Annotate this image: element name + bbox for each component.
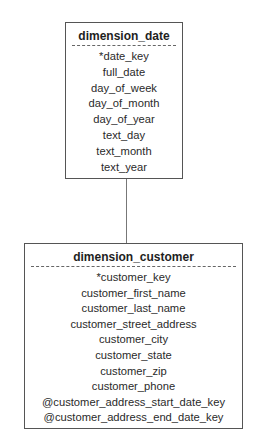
attribute: customer_phone bbox=[25, 379, 242, 395]
attribute: @customer_address_start_date_key bbox=[25, 395, 242, 411]
attribute: customer_zip bbox=[25, 364, 242, 380]
attribute: text_year bbox=[66, 160, 182, 176]
attribute: day_of_year bbox=[66, 112, 182, 128]
attribute: customer_last_name bbox=[25, 301, 242, 317]
attribute: *date_key bbox=[66, 49, 182, 65]
attribute: customer_street_address bbox=[25, 317, 242, 333]
relationship-line bbox=[126, 179, 127, 243]
attribute: day_of_month bbox=[66, 96, 182, 112]
attribute: customer_first_name bbox=[25, 286, 242, 302]
entity-title: dimension_date bbox=[66, 23, 182, 45]
attribute: @customer_address_end_date_key bbox=[25, 410, 242, 426]
attribute: *customer_key bbox=[25, 270, 242, 286]
attribute-list: *customer_key customer_first_name custom… bbox=[25, 267, 242, 426]
attribute: text_month bbox=[66, 144, 182, 160]
attribute: text_day bbox=[66, 128, 182, 144]
attribute: day_of_week bbox=[66, 81, 182, 97]
entity-dimension-customer: dimension_customer *customer_key custome… bbox=[24, 243, 243, 429]
attribute: customer_state bbox=[25, 348, 242, 364]
entity-dimension-date: dimension_date *date_key full_date day_o… bbox=[65, 22, 183, 179]
attribute-list: *date_key full_date day_of_week day_of_m… bbox=[66, 46, 182, 175]
attribute: full_date bbox=[66, 65, 182, 81]
entity-title: dimension_customer bbox=[25, 244, 242, 266]
attribute: customer_city bbox=[25, 332, 242, 348]
